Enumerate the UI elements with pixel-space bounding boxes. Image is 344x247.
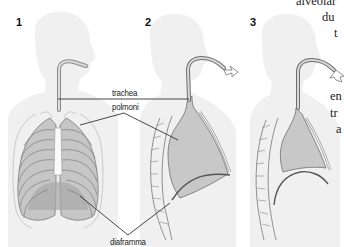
side-text-line-4: en [330, 89, 342, 104]
diagram-artwork [0, 0, 344, 247]
panel-2-silhouette [140, 14, 238, 247]
side-text-line-2: du [322, 10, 335, 25]
label-trachea: trachea [112, 88, 137, 98]
panel-number-1: 1 [16, 16, 22, 28]
side-text-line-5: tr [330, 106, 338, 121]
panel-number-2: 2 [145, 16, 151, 28]
side-text-line-6: a [336, 122, 342, 137]
label-lungs: polmoni [112, 102, 139, 112]
panel-3-silhouette [250, 14, 344, 247]
panel-number-3: 3 [250, 16, 256, 28]
label-diaphragm: diaframma [110, 237, 146, 247]
side-text-line-3: t [334, 26, 337, 41]
side-text-line-1: alveolar [296, 0, 336, 9]
respiration-diagram: 1 2 3 trachea polmoni diaframma alveolar… [0, 0, 344, 247]
